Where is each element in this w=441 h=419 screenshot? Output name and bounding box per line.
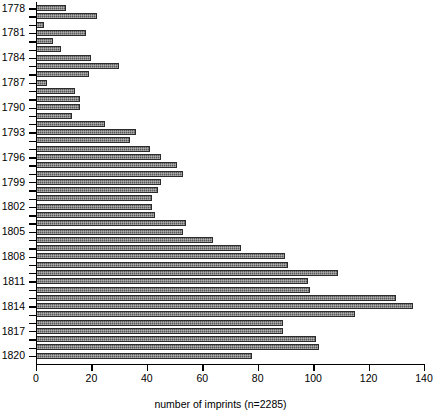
y-tick (29, 290, 36, 291)
x-tick (147, 364, 148, 371)
x-tick-label-40: 40 (141, 373, 153, 384)
y-tick (29, 182, 36, 183)
y-tick (29, 41, 36, 42)
y-tick (29, 207, 36, 208)
y-tick (29, 91, 36, 92)
y-tick (29, 83, 36, 84)
y-tick (29, 199, 36, 200)
x-tick (313, 364, 314, 371)
y-tick-label-1793: 1793 (2, 127, 25, 138)
y-tick-label-1778: 1778 (2, 3, 25, 14)
bar-1807 (36, 245, 241, 251)
y-tick (29, 232, 36, 233)
bar-1820 (36, 353, 252, 359)
bar-1788 (36, 88, 75, 94)
bar-1814 (36, 303, 413, 309)
y-tick (29, 174, 36, 175)
y-tick (29, 8, 36, 9)
y-tick (29, 248, 36, 249)
bar-1787 (36, 80, 47, 86)
y-tick (29, 149, 36, 150)
y-tick (29, 108, 36, 109)
y-tick-label-1805: 1805 (2, 226, 25, 237)
x-tick (369, 364, 370, 371)
y-tick (29, 33, 36, 34)
bar-1793 (36, 129, 136, 135)
bar-1818 (36, 336, 316, 342)
y-tick (29, 265, 36, 266)
bar-1786 (36, 71, 89, 77)
bar-1803 (36, 212, 155, 218)
bar-1799 (36, 179, 161, 185)
bar-1805 (36, 229, 183, 235)
x-tick-label-20: 20 (86, 373, 98, 384)
y-tick (29, 257, 36, 258)
x-tick (424, 364, 425, 371)
y-tick-label-1817: 1817 (2, 326, 25, 337)
y-tick (29, 16, 36, 17)
y-tick-label-1787: 1787 (2, 77, 25, 88)
x-tick-label-100: 100 (304, 373, 322, 384)
x-tick (202, 364, 203, 371)
bar-1806 (36, 237, 213, 243)
y-tick (29, 356, 36, 357)
y-tick (29, 165, 36, 166)
x-axis-line (36, 364, 425, 365)
bar-1790 (36, 104, 80, 110)
y-tick (29, 323, 36, 324)
bar-1815 (36, 311, 355, 317)
bar-1795 (36, 146, 150, 152)
y-tick (29, 348, 36, 349)
bar-1791 (36, 113, 72, 119)
y-tick (29, 157, 36, 158)
bar-1816 (36, 320, 283, 326)
bar-1801 (36, 195, 152, 201)
y-tick (29, 66, 36, 67)
x-tick-label-60: 60 (196, 373, 208, 384)
bar-1778 (36, 5, 66, 11)
bar-1804 (36, 220, 186, 226)
bar-1817 (36, 328, 283, 334)
bar-1808 (36, 253, 285, 259)
bar-1812 (36, 287, 310, 293)
y-tick (29, 240, 36, 241)
y-tick-label-1802: 1802 (2, 201, 25, 212)
y-tick (29, 190, 36, 191)
bar-1800 (36, 187, 158, 193)
y-tick (29, 25, 36, 26)
bar-1782 (36, 38, 53, 44)
y-tick (29, 99, 36, 100)
y-tick (29, 116, 36, 117)
bar-1811 (36, 278, 308, 284)
bar-1813 (36, 295, 396, 301)
y-tick (29, 339, 36, 340)
y-tick-label-1796: 1796 (2, 152, 25, 163)
y-tick (29, 58, 36, 59)
y-tick (29, 215, 36, 216)
x-tick (258, 364, 259, 371)
bar-1792 (36, 121, 105, 127)
y-tick-label-1799: 1799 (2, 177, 25, 188)
y-tick (29, 223, 36, 224)
y-axis-labels: 1778178117841787179017931796179918021805… (0, 0, 27, 419)
bar-1797 (36, 162, 177, 168)
y-tick-label-1790: 1790 (2, 102, 25, 113)
bar-1796 (36, 154, 161, 160)
x-tick (36, 364, 37, 371)
y-tick-label-1808: 1808 (2, 251, 25, 262)
y-tick (29, 132, 36, 133)
bar-1783 (36, 46, 61, 52)
bar-1785 (36, 63, 119, 69)
y-tick-label-1781: 1781 (2, 27, 25, 38)
y-tick-label-1784: 1784 (2, 52, 25, 63)
bar-1779 (36, 13, 97, 19)
y-tick (29, 298, 36, 299)
y-tick-label-1814: 1814 (2, 301, 25, 312)
y-tick-label-1811: 1811 (2, 276, 25, 287)
y-tick (29, 124, 36, 125)
x-tick-label-80: 80 (252, 373, 264, 384)
bar-1819 (36, 344, 319, 350)
y-tick (29, 273, 36, 274)
y-tick (29, 331, 36, 332)
bar-1789 (36, 96, 80, 102)
